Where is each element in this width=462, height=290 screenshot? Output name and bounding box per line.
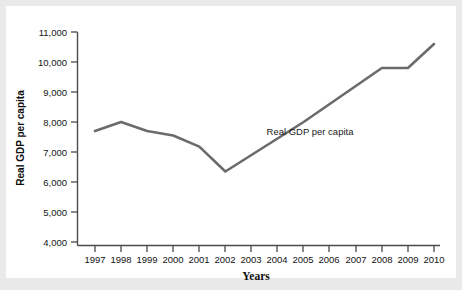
line-chart: 11,000 10,000 9,000 8,000 7,000 6,000 5,…: [0, 0, 462, 290]
y-axis-title: Real GDP per capita: [15, 90, 26, 186]
y-tick-label: 10,000: [38, 57, 67, 68]
x-tick-label: 2007: [345, 254, 366, 265]
y-tick-label: 9,000: [43, 87, 67, 98]
chart-figure: 11,000 10,000 9,000 8,000 7,000 6,000 5,…: [0, 0, 462, 290]
data-series-line: [95, 44, 434, 172]
x-tick-label: 2004: [266, 254, 287, 265]
y-tick-label: 8,000: [43, 117, 67, 128]
y-tick-label: 6,000: [43, 177, 67, 188]
x-tick-label: 2006: [318, 254, 339, 265]
y-tick-label: 7,000: [43, 147, 67, 158]
x-tick-label: 2008: [371, 254, 392, 265]
x-tick-label: 1998: [110, 254, 131, 265]
x-tick-label: 2003: [240, 254, 261, 265]
y-tick-label: 11,000: [39, 27, 67, 38]
x-tick-label: 2001: [188, 254, 209, 265]
x-tick-label: 2010: [423, 254, 444, 265]
x-tick-label: 1997: [84, 254, 105, 265]
x-tick-label: 2000: [162, 254, 183, 265]
y-axis-ticks: [71, 32, 78, 242]
y-axis-tick-labels: 11,000 10,000 9,000 8,000 7,000 6,000 5,…: [38, 27, 67, 248]
y-tick-label: 5,000: [43, 207, 67, 218]
x-tick-label: 1999: [136, 254, 157, 265]
series-label-annotation: Real GDP per capita: [267, 126, 355, 137]
x-axis-title: Years: [242, 270, 270, 282]
x-axis-tick-labels: 1997 1998 1999 2000 2001 2002 2003 2004 …: [84, 254, 444, 265]
x-tick-label: 2005: [292, 254, 313, 265]
x-tick-label: 2002: [214, 254, 235, 265]
x-axis-ticks: [95, 246, 434, 253]
x-tick-label: 2009: [397, 254, 418, 265]
y-tick-label: 4,000: [43, 237, 67, 248]
